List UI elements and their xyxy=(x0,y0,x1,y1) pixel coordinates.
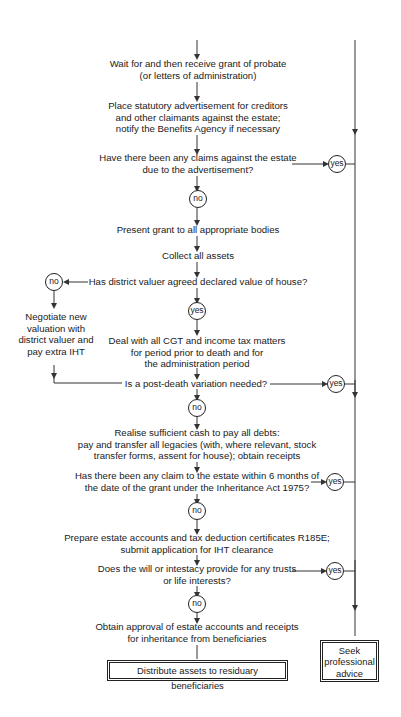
step-line: (or letters of administration) xyxy=(110,70,287,82)
end-line: Seek xyxy=(323,645,376,656)
step-line: valuation with xyxy=(18,323,93,335)
yes-circle-valuer: yes xyxy=(188,302,206,320)
step-receive-grant: Wait for and then receive grant of proba… xyxy=(110,58,287,81)
end-line: advice xyxy=(323,668,376,679)
step-present-grant: Present grant to all appropriate bodies xyxy=(117,224,280,236)
step-line: Present grant to all appropriate bodies xyxy=(117,224,280,236)
end-seek-advice: Seek professional advice xyxy=(320,640,379,682)
decision-claims: Have there been any claims against the e… xyxy=(99,152,296,175)
no-circle-valuer: no xyxy=(45,273,63,291)
step-line: for period prior to death and for xyxy=(109,347,286,359)
step-line: Has there been any claim to the estate w… xyxy=(75,470,319,482)
step-line: due to the advertisement? xyxy=(99,164,296,176)
no-circle-inheritance-act: no xyxy=(188,502,206,520)
no-circle-trusts: no xyxy=(188,595,206,613)
step-realise-cash: Realise sufficient cash to pay all debts… xyxy=(78,427,316,462)
step-line: for inheritance from beneficiaries xyxy=(95,633,298,645)
step-negotiate-valuation: Negotiate new valuation with district va… xyxy=(18,311,93,357)
yes-circle-claims: yes xyxy=(328,155,346,173)
decision-inheritance-act: Has there been any claim to the estate w… xyxy=(75,470,319,493)
step-line: Have there been any claims against the e… xyxy=(99,152,296,164)
step-cgt-matters: Deal with all CGT and income tax matters… xyxy=(109,335,286,370)
decision-trusts: Does the will or intestacy provide for a… xyxy=(98,563,296,586)
step-line: or life interests? xyxy=(98,575,296,587)
step-line: submit application for IHT clearance xyxy=(64,544,330,556)
yes-circle-variation: yes xyxy=(327,375,345,393)
step-line: and other claimants against the estate; xyxy=(108,112,288,124)
step-prepare-accounts: Prepare estate accounts and tax deductio… xyxy=(64,532,330,555)
yes-circle-inheritance-act: yes xyxy=(326,473,344,491)
step-obtain-approval: Obtain approval of estate accounts and r… xyxy=(95,621,298,644)
step-line: Is a post-death variation needed? xyxy=(125,378,267,390)
step-line: pay and transfer all legacies (with, whe… xyxy=(78,439,316,451)
step-line: Does the will or intestacy provide for a… xyxy=(98,563,296,575)
step-line: Wait for and then receive grant of proba… xyxy=(110,58,287,70)
step-line: Collect all assets xyxy=(162,250,234,262)
step-statutory-advert: Place statutory advertisement for credit… xyxy=(108,100,288,135)
step-line: district valuer and xyxy=(18,334,93,346)
step-line: Place statutory advertisement for credit… xyxy=(108,100,288,112)
step-line: pay extra IHT xyxy=(18,346,93,358)
step-line: notify the Benefits Agency if necessary xyxy=(108,123,288,135)
step-line: Prepare estate accounts and tax deductio… xyxy=(64,532,330,544)
step-line: Obtain approval of estate accounts and r… xyxy=(95,621,298,633)
end-distribute-assets: Distribute assets to residuary beneficia… xyxy=(107,660,288,681)
step-line: the administration period xyxy=(109,358,286,370)
no-circle-variation: no xyxy=(188,399,206,417)
yes-circle-trusts: yes xyxy=(326,562,344,580)
step-line: transfer forms, assent for house); obtai… xyxy=(78,450,316,462)
step-line: Has district valuer agreed declared valu… xyxy=(89,276,308,288)
step-line: Deal with all CGT and income tax matters xyxy=(109,335,286,347)
step-line: Realise sufficient cash to pay all debts… xyxy=(78,427,316,439)
step-line: the date of the grant under the Inherita… xyxy=(75,482,319,494)
step-collect-assets: Collect all assets xyxy=(162,250,234,262)
decision-variation: Is a post-death variation needed? xyxy=(125,378,267,390)
end-line: professional xyxy=(323,656,376,667)
no-circle-claims: no xyxy=(189,190,207,208)
step-line: Negotiate new xyxy=(18,311,93,323)
decision-valuer: Has district valuer agreed declared valu… xyxy=(89,276,308,288)
